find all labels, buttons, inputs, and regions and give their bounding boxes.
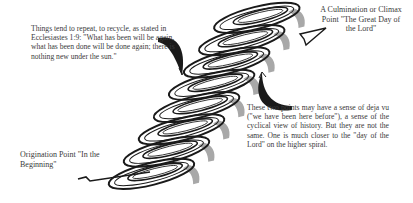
- culmination-point-label: A Culmination or Climax Point "The Great…: [318, 5, 404, 34]
- coil-1: [106, 152, 201, 203]
- origination-point-label: Origination Point "In the Beginning": [20, 150, 100, 170]
- ecclesiastes-quote-label: Things tend to repeat, to recycle, as st…: [31, 24, 176, 61]
- deja-vu-explanation-label: These two points may have a sense of dej…: [247, 103, 389, 149]
